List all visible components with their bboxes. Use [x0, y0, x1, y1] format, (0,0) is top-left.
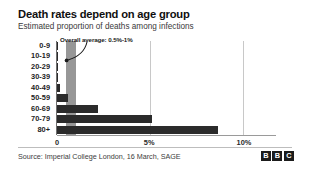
- footer-divider: [18, 147, 292, 148]
- bbc-logo: BBC: [261, 151, 294, 161]
- bbc-logo-block-2: B: [272, 151, 282, 161]
- bbc-logo-block-1: B: [261, 151, 271, 161]
- bar-row: [57, 83, 276, 93]
- y-axis-labels: 0-910-1920-2930-3940-4950-5960-6970-7980…: [0, 41, 54, 135]
- bar-60-69: [57, 105, 98, 113]
- bar-row: [57, 72, 276, 82]
- x-tick-label-0: 0: [55, 138, 59, 147]
- y-tick-label-80+: 80+: [37, 125, 50, 135]
- bar-20-29: [57, 63, 58, 71]
- y-tick-label-0-9: 0-9: [39, 41, 50, 51]
- bbc-logo-block-3: C: [284, 151, 294, 161]
- bar-row: [57, 93, 276, 103]
- bar-40-49: [57, 84, 60, 92]
- y-tick-label-20-29: 20-29: [31, 62, 50, 72]
- y-tick-label-60-69: 60-69: [31, 104, 50, 114]
- chart-subtitle: Estimated proportion of deaths among inf…: [18, 22, 194, 31]
- bar-row: [57, 125, 276, 135]
- chart-figure: Death rates depend on age group Estimate…: [0, 0, 310, 172]
- y-tick-label-50-59: 50-59: [31, 93, 50, 103]
- bar-row: [57, 62, 276, 72]
- y-tick-label-70-79: 70-79: [31, 114, 50, 124]
- chart-title: Death rates depend on age group: [18, 8, 190, 20]
- bar-30-39: [57, 73, 58, 81]
- x-tick-label-5%: 5%: [144, 138, 155, 147]
- bar-row: [57, 114, 276, 124]
- bar-70-79: [57, 115, 152, 123]
- y-tick-label-30-39: 30-39: [31, 72, 50, 82]
- bar-series: [57, 41, 276, 135]
- annotation-label: Overall average: 0.5%-1%: [60, 36, 133, 43]
- x-axis-line: [57, 135, 276, 136]
- bar-row: [57, 104, 276, 114]
- bar-10-19: [57, 52, 58, 60]
- source-note: Source: Imperial College London, 16 Marc…: [18, 152, 181, 161]
- bar-80+: [57, 126, 218, 134]
- bar-row: [57, 51, 276, 61]
- plot-area: [57, 41, 276, 135]
- bar-50-59: [57, 94, 68, 102]
- bar-0-9: [57, 42, 58, 50]
- x-tick-label-10%: 10%: [237, 138, 252, 147]
- y-tick-label-40-49: 40-49: [31, 83, 50, 93]
- y-tick-label-10-19: 10-19: [31, 51, 50, 61]
